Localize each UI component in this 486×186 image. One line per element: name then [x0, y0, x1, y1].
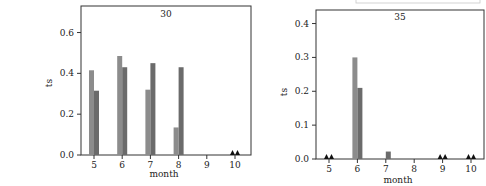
zero-value-marker	[329, 154, 334, 159]
chart-panel-35: 35 month ts 0.00.10.20.30.45678910	[279, 10, 484, 185]
bar-series-1-month-6	[352, 57, 357, 159]
y-axis-label: ts	[44, 79, 54, 88]
x-tick-label: 9	[204, 160, 210, 170]
zero-value-marker	[324, 154, 329, 159]
x-tick-label: 7	[148, 160, 154, 170]
bar-series-2-month-6	[357, 88, 362, 159]
chart-title: 35	[394, 12, 406, 22]
zero-value-marker	[471, 154, 476, 159]
zero-value-marker	[235, 150, 240, 155]
x-tick-label: 10	[465, 164, 477, 174]
y-tick-label: 0.4	[295, 19, 310, 29]
y-tick-label: 0.0	[60, 150, 75, 160]
x-axis-label: month	[383, 175, 412, 185]
x-tick-label: 5	[326, 164, 332, 174]
bar-series-1-month-8	[174, 127, 179, 155]
chart-figure: 30 month ts 0.00.20.40.65678910 35 month…	[0, 0, 486, 186]
y-tick-label: 0.2	[60, 109, 74, 119]
zero-value-marker	[443, 154, 448, 159]
y-tick-label: 0.6	[60, 28, 75, 38]
x-tick-label: 6	[119, 160, 125, 170]
bar-series-1-month-5	[89, 70, 94, 155]
x-axis-label: month	[149, 169, 178, 179]
bar-series-2-month-7	[386, 152, 391, 159]
chart-title: 30	[160, 9, 172, 19]
x-tick-label: 8	[411, 164, 417, 174]
bar-series-2-month-6	[122, 67, 127, 155]
y-tick-label: 0.1	[295, 120, 309, 130]
x-tick-label: 7	[383, 164, 389, 174]
chart-panel-30: 30 month ts 0.00.20.40.65678910	[44, 6, 251, 179]
zero-value-marker	[438, 154, 443, 159]
y-axis-label: ts	[279, 88, 289, 97]
bar-series-2-month-5	[94, 91, 99, 155]
plot-frame	[81, 6, 251, 155]
bar-series-2-month-7	[150, 63, 155, 155]
x-tick-label: 8	[176, 160, 182, 170]
x-tick-label: 5	[91, 160, 97, 170]
y-tick-label: 0.3	[295, 52, 310, 62]
plot-frame	[316, 10, 484, 159]
zero-value-marker	[466, 154, 471, 159]
y-tick-label: 0.2	[295, 86, 309, 96]
legend-box-fragment	[356, 0, 480, 3]
zero-value-marker	[230, 150, 235, 155]
y-tick-label: 0.4	[60, 68, 75, 78]
bar-series-2-month-8	[179, 67, 184, 155]
y-tick-label: 0.0	[295, 154, 310, 164]
x-tick-label: 6	[355, 164, 361, 174]
bar-series-1-month-6	[117, 56, 122, 155]
x-tick-label: 9	[440, 164, 446, 174]
bar-series-1-month-7	[145, 90, 150, 155]
x-tick-label: 10	[229, 160, 241, 170]
